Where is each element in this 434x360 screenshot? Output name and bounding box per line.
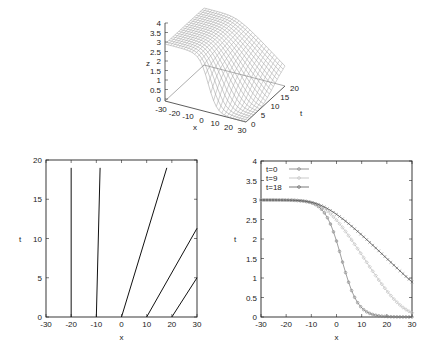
x-tick-label: -10 xyxy=(306,320,318,329)
y-tick-label: 1.5 xyxy=(246,255,258,264)
x-tick-label: 10 xyxy=(211,119,220,128)
y-tick-label: 3 xyxy=(253,196,258,205)
z-tick-label: 3.5 xyxy=(150,29,162,38)
x-tick-label: 10 xyxy=(142,320,151,329)
x-tick-label: 0 xyxy=(119,320,124,329)
characteristic-line xyxy=(172,278,197,317)
x-tick-label: -10 xyxy=(91,320,103,329)
x-tick-label: 20 xyxy=(224,123,233,132)
t-tick-label: 5 xyxy=(261,111,266,120)
x-tick-label: -20 xyxy=(65,320,77,329)
y-tick-label: 1 xyxy=(253,274,258,283)
z-tick-label: 0.5 xyxy=(150,86,162,95)
x-tick-label: 0 xyxy=(334,320,339,329)
x-tick-label: -10 xyxy=(182,112,194,121)
characteristic-line xyxy=(96,168,100,317)
t-tick-label: 20 xyxy=(290,84,299,93)
z-tick-label: 3 xyxy=(157,38,162,47)
y-tick-label: 2 xyxy=(253,235,258,244)
y-tick-label: 0 xyxy=(253,313,258,322)
y-tick-label: 15 xyxy=(33,195,42,204)
z-axis-label: z xyxy=(146,59,150,68)
legend-label: t=9 xyxy=(266,174,278,183)
t-tick-label: 10 xyxy=(271,102,280,111)
legend-label: t=0 xyxy=(266,165,278,174)
x-tick-label: 0 xyxy=(199,116,204,125)
x-tick-label: 20 xyxy=(167,320,176,329)
y-tick-label: 20 xyxy=(33,156,42,165)
x-tick-label: -20 xyxy=(169,109,181,118)
series-line xyxy=(261,200,412,317)
characteristic-line xyxy=(147,228,197,317)
y-tick-label: 0.5 xyxy=(246,294,258,303)
z-tick-label: 2.5 xyxy=(150,48,162,57)
y-tick-label: 2.5 xyxy=(246,216,258,225)
x-tick-label: -20 xyxy=(280,320,292,329)
y-tick-label: 5 xyxy=(38,274,43,283)
x-axis-label: x xyxy=(335,333,339,342)
z-tick-label: 0 xyxy=(157,95,162,104)
t-axis-label: t xyxy=(300,109,303,118)
plot-frame xyxy=(46,160,197,317)
x-tick-label: -30 xyxy=(155,105,167,114)
y-axis-label: t xyxy=(19,235,22,244)
z-tick-label: 1 xyxy=(157,76,162,85)
x-tick-label: 10 xyxy=(357,320,366,329)
z-tick-label: 1.5 xyxy=(150,67,162,76)
surface-plot-3d: 00.511.522.533.54z-30-20-100102030x05101… xyxy=(146,8,303,135)
y-tick-label: 3.5 xyxy=(246,177,258,186)
characteristics-plot: -30-20-10010203005101520xt xyxy=(19,156,202,342)
t-tick-label: 0 xyxy=(251,120,256,129)
x-tick-label: 30 xyxy=(238,126,247,135)
x-tick-label: 30 xyxy=(408,320,417,329)
z-tick-label: 2 xyxy=(157,57,162,66)
x-tick-label: -30 xyxy=(40,320,52,329)
x-tick-label: 30 xyxy=(193,320,202,329)
legend-label: t=18 xyxy=(266,183,282,192)
y-tick-label: 10 xyxy=(33,235,42,244)
y-tick-label: 4 xyxy=(253,157,258,166)
figure: 00.511.522.533.54z-30-20-100102030x05101… xyxy=(0,0,434,360)
profiles-plot: -30-20-10010203000.511.522.533.54xtt=0t=… xyxy=(234,157,417,342)
y-tick-label: 0 xyxy=(38,313,43,322)
x-tick-label: 20 xyxy=(382,320,391,329)
x-axis-label: x xyxy=(120,333,124,342)
y-axis-label: t xyxy=(234,235,237,244)
x-axis-label: x xyxy=(193,123,197,132)
z-tick-label: 4 xyxy=(157,19,162,28)
t-tick-label: 15 xyxy=(280,93,289,102)
characteristic-line xyxy=(122,168,167,317)
x-tick-label: -30 xyxy=(255,320,267,329)
